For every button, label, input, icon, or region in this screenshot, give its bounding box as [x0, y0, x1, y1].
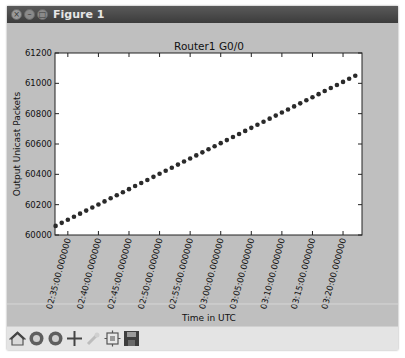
data-point	[176, 162, 181, 167]
data-point	[255, 122, 260, 127]
data-point	[322, 89, 327, 94]
window-title: Figure 1	[53, 7, 104, 22]
data-point	[151, 175, 156, 180]
data-point	[249, 126, 254, 131]
chart-title: Router1 G0/0	[174, 40, 244, 52]
data-point	[114, 193, 119, 198]
figure-window: × – □ Figure 1 Router1 G0/0 600006020060…	[7, 6, 398, 350]
plot-area	[55, 53, 362, 235]
home-icon[interactable]	[9, 330, 26, 347]
maximize-window-button[interactable]: □	[37, 9, 48, 20]
y-tick-label: 60000	[25, 230, 52, 240]
data-point	[261, 119, 266, 124]
chart: Router1 G0/0 600006020060400606006080061…	[7, 23, 398, 326]
data-point	[206, 147, 211, 152]
save-floppy-icon[interactable]	[123, 330, 140, 347]
data-point	[225, 138, 230, 143]
data-point	[280, 110, 285, 115]
data-point	[66, 217, 71, 222]
minimize-window-button[interactable]: –	[24, 9, 35, 20]
back-arrow-icon[interactable]	[28, 330, 45, 347]
data-point	[157, 172, 162, 177]
data-point	[273, 113, 278, 118]
data-point	[121, 190, 126, 195]
data-point	[353, 73, 358, 78]
data-point	[145, 178, 150, 183]
y-tick-label: 60800	[25, 109, 52, 119]
data-point	[237, 132, 242, 137]
data-point	[298, 101, 303, 106]
data-point	[347, 77, 352, 82]
y-tick-label: 60600	[25, 139, 52, 149]
data-point	[329, 86, 334, 91]
data-point	[212, 144, 217, 149]
data-point	[163, 168, 168, 173]
data-point	[53, 224, 58, 229]
data-point	[316, 92, 321, 97]
data-point	[335, 83, 340, 88]
navigation-toolbar	[7, 326, 398, 350]
x-axis-label: Time in UTC	[181, 313, 236, 323]
data-point	[102, 199, 107, 204]
data-point	[78, 211, 83, 216]
data-point	[310, 95, 315, 100]
y-tick-label: 60400	[25, 169, 52, 179]
data-point	[188, 156, 193, 161]
zoom-rect-icon[interactable]	[85, 330, 102, 347]
data-point	[59, 221, 64, 226]
data-point	[84, 208, 89, 213]
data-point	[341, 80, 346, 85]
y-tick-label: 60200	[25, 200, 52, 210]
data-point	[72, 214, 77, 219]
title-bar[interactable]: × – □ Figure 1	[7, 6, 398, 23]
data-point	[218, 141, 223, 146]
data-point	[231, 135, 236, 140]
data-point	[292, 104, 297, 109]
data-point	[139, 181, 144, 186]
data-point	[108, 196, 113, 201]
data-point	[182, 159, 187, 164]
data-point	[286, 107, 291, 112]
data-point	[243, 129, 248, 134]
data-point	[194, 153, 199, 158]
forward-arrow-icon[interactable]	[47, 330, 64, 347]
data-point	[133, 184, 138, 189]
close-window-button[interactable]: ×	[11, 9, 22, 20]
figure-canvas[interactable]: Router1 G0/0 600006020060400606006080061…	[7, 23, 398, 326]
configure-subplots-icon[interactable]	[104, 330, 121, 347]
y-axis-label: Output Unicast Packets	[12, 91, 22, 196]
data-point	[304, 98, 309, 103]
pan-move-icon[interactable]	[66, 330, 83, 347]
data-point	[267, 116, 272, 121]
y-tick-label: 61000	[25, 78, 52, 88]
data-point	[127, 187, 132, 192]
data-point	[96, 202, 101, 207]
data-point	[200, 150, 205, 155]
data-point	[170, 165, 175, 170]
data-point	[90, 205, 95, 210]
y-tick-label: 61200	[25, 48, 52, 58]
